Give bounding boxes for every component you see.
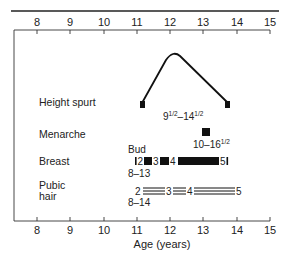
top-tick-label-11: 11	[131, 16, 142, 28]
breast-stage-3-label: 3	[153, 156, 159, 167]
row-label-hair: hair	[39, 190, 57, 202]
top-tick-label-9: 9	[67, 16, 73, 28]
height-spurt-end-marker	[225, 101, 230, 108]
pubic-stage-4-label: 4	[187, 186, 193, 197]
row-label-breast: Breast	[39, 155, 69, 167]
top-axis-tick-labels: 8 9 10 11 12 13 14 15	[34, 16, 276, 28]
bottom-axis-tick-labels: 8 9 10 11 12 13 14 15	[34, 224, 276, 236]
top-tick-label-14: 14	[231, 16, 243, 28]
breast-bud-label: Bud	[128, 144, 146, 155]
bottom-tick-label-11: 11	[131, 224, 142, 236]
height-spurt-start-marker	[140, 101, 145, 108]
breast-stage-3-bar	[160, 157, 169, 165]
top-tick-label-12: 12	[164, 16, 176, 28]
puberty-timeline-chart: 8 9 10 11 12 13 14 15 8 9 10	[0, 0, 286, 260]
top-tick-label-8: 8	[34, 16, 40, 28]
bottom-axis	[14, 217, 270, 221]
breast-stage-2-bar	[144, 157, 152, 165]
pubic-stage-2-lines	[143, 188, 165, 194]
pubic-stage-4-lines	[194, 188, 235, 194]
breast-range-label: 8–13	[128, 168, 151, 179]
pubic-stage-3-lines	[173, 188, 186, 194]
top-tick-label-15: 15	[264, 16, 276, 28]
bottom-tick-label-15: 15	[264, 224, 276, 236]
pubic-stage-3-label: 3	[166, 186, 172, 197]
pubic-range-label: 8–14	[128, 197, 151, 208]
pubic-stage-5-label: 5	[236, 186, 242, 197]
menarche-range-label: 10–161/2	[193, 138, 230, 150]
row-label-height-spurt: Height spurt	[39, 96, 96, 108]
bottom-tick-label-8: 8	[34, 224, 40, 236]
pubic-stage-2-label: 2	[135, 186, 141, 197]
top-tick-label-10: 10	[98, 16, 110, 28]
top-axis	[14, 30, 270, 34]
breast-stage-2-label: 2	[138, 156, 144, 167]
breast-stage-bar: 2 3 4 5	[135, 156, 228, 167]
top-tick-label-13: 13	[197, 16, 209, 28]
breast-stage-5-label: 5	[220, 156, 226, 167]
bottom-tick-label-14: 14	[231, 224, 243, 236]
breast-stage-4-label: 4	[170, 156, 176, 167]
bottom-tick-label-13: 13	[197, 224, 209, 236]
bottom-tick-label-10: 10	[98, 224, 110, 236]
row-label-menarche: Menarche	[39, 128, 86, 140]
height-spurt-curve	[140, 54, 230, 108]
bottom-tick-label-12: 12	[164, 224, 176, 236]
breast-stage-4-bar	[178, 157, 219, 165]
pubic-hair-stage-bar: 2 3 4 5	[135, 186, 242, 197]
x-axis-title: Age (years)	[134, 238, 191, 250]
bottom-tick-label-9: 9	[67, 224, 73, 236]
height-spurt-range-label: 91/2–141/2	[163, 110, 204, 122]
menarche-marker	[202, 128, 210, 136]
